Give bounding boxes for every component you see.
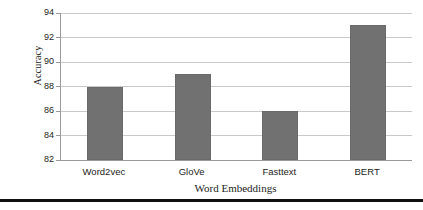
- y-axis-tick-mark: [56, 62, 61, 63]
- y-axis-tick-mark: [56, 160, 61, 161]
- gridline: [61, 13, 412, 14]
- bar-chart-figure: 82848688909294 Accuracy Word2vecGloVeFas…: [0, 0, 423, 210]
- y-axis-tick-mark: [56, 111, 61, 112]
- plot-area: [60, 13, 411, 160]
- bar: [175, 74, 211, 160]
- x-axis-tick-label: Fasttext: [236, 166, 324, 178]
- y-axis-tick-mark: [56, 135, 61, 136]
- y-axis-title: Accuracy: [32, 21, 43, 111]
- x-axis-title: Word Embeddings: [60, 182, 411, 194]
- figure-bottom-rule: [0, 199, 423, 202]
- y-axis-tick-mark: [56, 37, 61, 38]
- y-axis-tick-mark: [56, 13, 61, 14]
- x-axis-tick-label: Word2vec: [60, 166, 148, 178]
- bar: [350, 25, 386, 160]
- x-axis-tick-labels: Word2vecGloVeFasttextBERT: [60, 166, 411, 180]
- x-axis-tick-label: BERT: [323, 166, 411, 178]
- bar: [262, 111, 298, 160]
- y-axis-tick-mark: [56, 86, 61, 87]
- x-axis-tick-label: GloVe: [148, 166, 236, 178]
- y-axis-tick-label: 94: [30, 8, 54, 17]
- y-axis-tick-label: 84: [30, 131, 54, 140]
- bar: [87, 87, 123, 161]
- y-axis-tick-label: 82: [30, 155, 54, 164]
